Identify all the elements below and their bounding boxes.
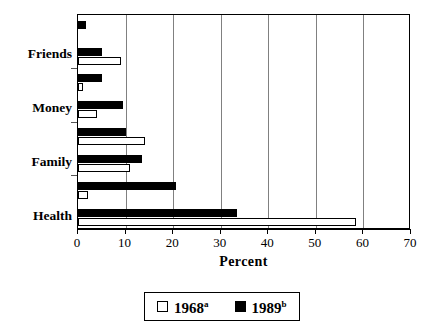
- x-tick-label-40: 40: [247, 235, 287, 250]
- bar-group-4: [78, 123, 409, 150]
- x-tick-label-20: 20: [152, 235, 192, 250]
- x-tick-label-30: 30: [200, 235, 240, 250]
- bar-1989-3: [78, 101, 123, 109]
- bar-1989-0: [78, 21, 86, 29]
- x-tick-label-60: 60: [342, 235, 382, 250]
- y-axis-label-friends: Friends: [5, 47, 77, 61]
- x-tick-30: [220, 229, 221, 234]
- y-axis-label-health: Health: [5, 209, 77, 223]
- white-square-icon: [157, 301, 168, 312]
- bar-group-5: [78, 149, 409, 176]
- chart-legend: 1968a1989b: [144, 292, 300, 321]
- bar-1968-4: [78, 137, 145, 145]
- bar-group-2: [78, 69, 409, 96]
- bar-1968-5: [78, 164, 130, 172]
- bar-group-7: [78, 203, 409, 230]
- x-tick-20: [172, 229, 173, 234]
- x-tick-10: [125, 229, 126, 234]
- x-tick-label-0: 0: [57, 235, 97, 250]
- bar-group-0: [78, 15, 409, 42]
- x-tick-50: [315, 229, 316, 234]
- plot-area: [77, 14, 410, 229]
- x-tick-label-10: 10: [105, 235, 145, 250]
- legend-footnote-marker-b: b: [282, 299, 287, 309]
- x-tick-label-50: 50: [295, 235, 335, 250]
- x-axis-line: [77, 229, 410, 230]
- x-tick-label-70: 70: [390, 235, 421, 250]
- bar-1989-1: [78, 48, 102, 56]
- legend-label-1989: 1989b: [252, 296, 287, 316]
- bar-1989-2: [78, 74, 102, 82]
- y-axis-labels: FriendsMoneyFamilyHealth: [0, 14, 77, 229]
- x-tick-70: [410, 229, 411, 234]
- black-square-icon: [235, 301, 246, 312]
- bar-1968-2: [78, 83, 83, 91]
- bar-group-1: [78, 42, 409, 69]
- legend-label-1968: 1968a: [174, 296, 209, 316]
- legend-item-1989: 1989b: [235, 296, 287, 316]
- x-tick-0: [77, 229, 78, 234]
- x-tick-40: [267, 229, 268, 234]
- bar-1968-1: [78, 57, 121, 65]
- x-tick-60: [362, 229, 363, 234]
- x-axis-title: Percent: [77, 254, 410, 270]
- bar-1989-6: [78, 182, 176, 190]
- legend-footnote-marker-a: a: [204, 299, 209, 309]
- bar-1989-7: [78, 209, 237, 217]
- bar-group-6: [78, 176, 409, 203]
- bar-chart: FriendsMoneyFamilyHealth 010203040506070…: [0, 0, 421, 332]
- legend-item-1968: 1968a: [157, 296, 209, 316]
- bar-1989-5: [78, 155, 142, 163]
- y-axis-label-family: Family: [5, 155, 77, 169]
- bar-1968-6: [78, 191, 88, 199]
- bar-1968-3: [78, 110, 97, 118]
- bar-1989-4: [78, 128, 126, 136]
- bar-1968-7: [78, 218, 356, 226]
- bar-group-3: [78, 96, 409, 123]
- y-axis-label-money: Money: [5, 101, 77, 115]
